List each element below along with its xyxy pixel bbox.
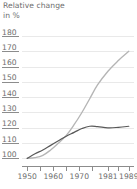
line-light-series bbox=[27, 51, 129, 158]
line-dark-series bbox=[27, 126, 129, 158]
series-layer bbox=[0, 0, 137, 189]
chart-container: Relative change in % 1001101201301401501… bbox=[0, 0, 137, 189]
